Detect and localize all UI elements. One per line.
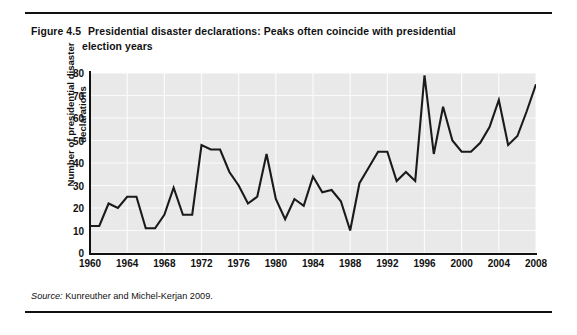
- plot-area: [90, 73, 536, 253]
- source-label: Source:: [31, 291, 63, 301]
- x-tick-1984: 1984: [302, 258, 324, 269]
- figure-container: Figure 4.5Presidential disaster declarat…: [0, 0, 577, 335]
- x-tick-1988: 1988: [339, 258, 361, 269]
- y-tick-20: 20: [58, 203, 84, 214]
- x-tick-1980: 1980: [265, 258, 287, 269]
- x-axis-line: [89, 253, 537, 255]
- x-tick-2008: 2008: [525, 258, 547, 269]
- y-axis-title: Number of presidential disaster declarat…: [65, 35, 88, 195]
- y-tick-10: 10: [58, 225, 84, 236]
- figure-title-line-2: election years: [82, 39, 547, 54]
- x-tick-1972: 1972: [190, 258, 212, 269]
- x-tick-1968: 1968: [153, 258, 175, 269]
- x-tick-2000: 2000: [451, 258, 473, 269]
- x-axis-tick-labels: 1960196419681972197619801984198819921996…: [0, 258, 577, 272]
- x-tick-1976: 1976: [228, 258, 250, 269]
- bottom-rule: [25, 311, 552, 313]
- figure-title: Figure 4.5Presidential disaster declarat…: [31, 24, 547, 54]
- x-tick-1960: 1960: [79, 258, 101, 269]
- y-axis-line: [89, 71, 91, 255]
- chart-canvas: [90, 73, 536, 253]
- x-tick-1996: 1996: [413, 258, 435, 269]
- x-tick-1992: 1992: [376, 258, 398, 269]
- x-tick-2004: 2004: [488, 258, 510, 269]
- x-tick-1964: 1964: [116, 258, 138, 269]
- top-rule: [25, 12, 552, 14]
- y-tick-0: 0: [58, 248, 84, 259]
- figure-title-line-1: Presidential disaster declarations: Peak…: [88, 26, 456, 37]
- source-text: Kunreuther and Michel-Kerjan 2009.: [65, 291, 213, 301]
- source-note: Source: Kunreuther and Michel-Kerjan 200…: [31, 291, 213, 301]
